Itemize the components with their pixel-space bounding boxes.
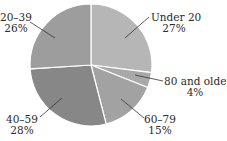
label-20-39-pct: 26% <box>0 23 32 34</box>
pie-wedges <box>30 4 152 126</box>
label-80-and-older: 80 and older 4% <box>164 76 226 98</box>
pie-wedge-20-39 <box>30 4 91 69</box>
label-40-59-pct: 28% <box>5 125 39 136</box>
pie-wedge-under-20 <box>91 4 152 73</box>
label-80-and-older-pct: 4% <box>164 87 226 98</box>
label-under-20: Under 20 27% <box>151 12 197 34</box>
label-under-20-pct: 27% <box>151 23 197 34</box>
label-20-39: 20–39 26% <box>0 12 32 34</box>
label-60-79: 60–79 15% <box>143 114 177 136</box>
label-60-79-pct: 15% <box>143 125 177 136</box>
label-40-59: 40–59 28% <box>5 114 39 136</box>
